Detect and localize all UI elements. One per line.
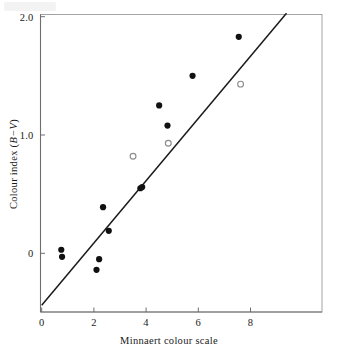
data-point-filled-5 [106, 228, 112, 234]
data-point-filled-8 [156, 102, 162, 108]
data-point-filled-1 [59, 254, 65, 260]
scatter-plot-figure: 02468 01.02.0 Minnaert colour scale Colo… [0, 0, 338, 361]
y-axis-title-italic: B−V [8, 123, 19, 144]
y-axis-title-prefix: Colour index ( [8, 144, 19, 209]
y-axis-title: Colour index (B−V) [8, 119, 19, 209]
x-tick-label-2: 2 [91, 317, 96, 328]
y-tick-label-2.0: 2.0 [10, 11, 34, 22]
data-point-filled-0 [58, 247, 64, 253]
x-tick-label-4: 4 [143, 317, 148, 328]
data-point-open-0 [130, 153, 136, 159]
y-axis-title-suffix: ) [8, 119, 19, 123]
x-tick-label-0: 0 [39, 317, 44, 328]
regression-line [42, 13, 287, 305]
data-point-open-1 [165, 140, 171, 146]
data-point-filled-9 [164, 122, 170, 128]
data-point-filled-4 [100, 204, 106, 210]
fit-line-segment [42, 13, 287, 305]
data-point-filled-10 [189, 73, 195, 79]
data-point-filled-3 [96, 256, 102, 262]
data-points [58, 34, 243, 273]
axis-ticks [41, 17, 251, 312]
data-point-open-2 [238, 81, 244, 87]
plot-frame [41, 15, 323, 313]
x-tick-label-8: 8 [248, 317, 253, 328]
y-tick-label-0: 0 [10, 248, 34, 259]
x-tick-label-6: 6 [196, 317, 201, 328]
x-axis-title: Minnaert colour scale [120, 335, 218, 346]
data-point-filled-11 [236, 34, 242, 40]
plot-frame-box [41, 15, 323, 313]
data-point-filled-7 [139, 184, 145, 190]
plot-canvas [0, 0, 338, 361]
data-point-filled-2 [93, 267, 99, 273]
